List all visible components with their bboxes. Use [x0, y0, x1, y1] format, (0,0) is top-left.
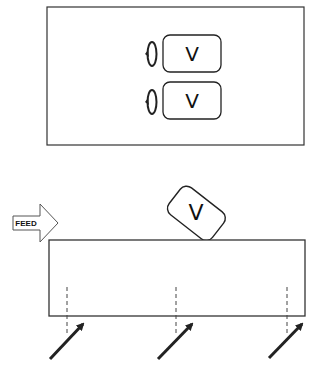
feed-arrow: FEED: [13, 204, 58, 242]
rotate-arrow-icon: [145, 42, 157, 66]
diagram-canvas: V V FEED V: [0, 0, 317, 373]
valve-label: V: [185, 42, 199, 66]
top-panel-frame: [47, 7, 304, 145]
rotate-arrow-icon: [145, 90, 157, 114]
tilted-valve-label: V: [188, 200, 203, 225]
diagonal-arrow-icon: [269, 324, 302, 358]
valve-2[interactable]: V: [145, 82, 221, 119]
feed-label: FEED: [15, 219, 37, 228]
diagonal-arrow-icon: [158, 324, 192, 359]
top-panel: V V: [47, 7, 304, 145]
valve-label: V: [185, 89, 199, 113]
tank-frame: [49, 240, 305, 316]
bottom-panel: FEED V: [13, 183, 305, 359]
valve-1[interactable]: V: [145, 35, 221, 72]
